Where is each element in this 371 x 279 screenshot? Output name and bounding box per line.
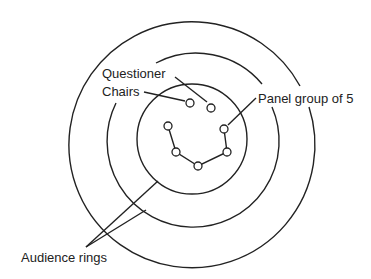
middle-audience-ring-lower [107, 103, 279, 227]
questioner-chair-icon [207, 104, 215, 112]
chairs-leader [144, 92, 185, 101]
panel-connector [168, 126, 227, 166]
outer-audience-ring [69, 22, 315, 268]
panel-seat-icon [220, 125, 228, 133]
seating-diagram: Questioner Chairs Panel group of 5 Audie… [0, 0, 371, 279]
questioner-label: Questioner [102, 66, 166, 81]
questioner-leader [175, 77, 207, 102]
middle-audience-ring [156, 53, 262, 84]
panel-seat-icon [172, 148, 180, 156]
panel-seat-icon [164, 122, 172, 130]
questioner-chair-icon [186, 99, 194, 107]
panel-seat-icon [194, 162, 202, 170]
audience-rings-label: Audience rings [21, 250, 107, 265]
panel-seat-icon [223, 148, 231, 156]
chairs-label: Chairs [102, 84, 140, 99]
diagram-graphics [0, 0, 371, 279]
panel-group-label: Panel group of 5 [258, 91, 353, 106]
